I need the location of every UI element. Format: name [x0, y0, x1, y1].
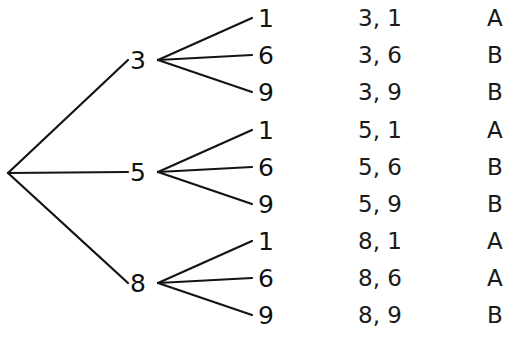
outcome-category: A — [487, 230, 503, 253]
stage1-node-5: 5 — [130, 160, 146, 185]
stage2-leaf-label: 6 — [258, 155, 274, 180]
branch-stage2-7 — [158, 278, 252, 283]
branch-stage1-0 — [8, 60, 128, 173]
outcome-pair: 3, 1 — [358, 7, 402, 30]
outcome-pair: 8, 9 — [358, 304, 402, 327]
branch-stage2-2 — [158, 60, 252, 92]
stage1-node-3: 3 — [130, 48, 146, 73]
branch-stage2-6 — [158, 241, 252, 283]
branch-stage2-1 — [158, 55, 252, 60]
branch-stage1-2 — [8, 173, 128, 283]
outcome-category: A — [487, 7, 503, 30]
stage2-leaf-label: 1 — [258, 118, 274, 143]
outcome-category: B — [487, 44, 503, 67]
outcome-category: A — [487, 267, 503, 290]
branch-stage2-4 — [158, 167, 252, 172]
stage2-leaf-label: 1 — [258, 229, 274, 254]
edges-level-2 — [158, 18, 252, 315]
outcome-pair: 5, 6 — [358, 156, 402, 179]
outcome-pair: 5, 9 — [358, 193, 402, 216]
outcome-category: A — [487, 119, 503, 142]
stage1-node-8: 8 — [130, 271, 146, 296]
outcome-pair: 8, 6 — [358, 267, 402, 290]
tree-diagram-canvas: 358 169169169 3, 13, 63, 95, 15, 65, 98,… — [0, 0, 532, 342]
outcome-category: B — [487, 304, 503, 327]
outcome-pair: 3, 6 — [358, 44, 402, 67]
stage2-leaf-label: 9 — [258, 192, 274, 217]
outcome-pair: 8, 1 — [358, 230, 402, 253]
edges-level-1 — [8, 60, 128, 283]
outcome-category: B — [487, 193, 503, 216]
stage2-leaf-label: 6 — [258, 43, 274, 68]
stage2-leaf-label: 1 — [258, 6, 274, 31]
branch-stage2-8 — [158, 283, 252, 315]
outcome-category: B — [487, 156, 503, 179]
branch-stage2-0 — [158, 18, 252, 60]
branch-stage2-5 — [158, 172, 252, 204]
stage2-leaf-label: 6 — [258, 266, 274, 291]
branch-stage1-1 — [8, 172, 128, 173]
outcome-pair: 3, 9 — [358, 81, 402, 104]
stage2-leaf-label: 9 — [258, 80, 274, 105]
outcome-pair: 5, 1 — [358, 119, 402, 142]
branch-stage2-3 — [158, 130, 252, 172]
outcome-category: B — [487, 81, 503, 104]
stage2-leaf-label: 9 — [258, 303, 274, 328]
